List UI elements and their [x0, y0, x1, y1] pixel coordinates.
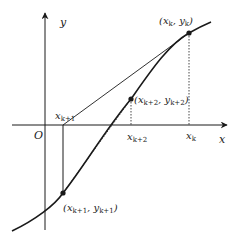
point-label-xk1-yk1: (xk+1, yk+1)	[63, 202, 118, 215]
tick-label-xk2: xk+2	[127, 131, 147, 144]
y-axis-label: y	[59, 16, 67, 29]
point-xk-yk	[186, 30, 191, 35]
secant-line	[63, 33, 189, 125]
x-axis-label: x	[219, 133, 226, 146]
point-label-xk2-yk2: (xk+2, yk+2)	[134, 94, 189, 107]
point-xk2-yk2	[128, 96, 133, 101]
diagram-canvas: y x O xk+1 xk+2 xk (xk, yk) (xk+2, yk+2)…	[0, 0, 235, 241]
point-label-xk-yk: (xk, yk)	[159, 15, 193, 28]
iteration-diagram: y x O xk+1 xk+2 xk (xk, yk) (xk+2, yk+2)…	[0, 0, 235, 241]
origin-label: O	[34, 129, 43, 142]
point-xk1-yk1	[60, 190, 65, 195]
tick-label-xk1: xk+1	[55, 110, 75, 123]
tick-label-xk: xk	[186, 130, 197, 143]
